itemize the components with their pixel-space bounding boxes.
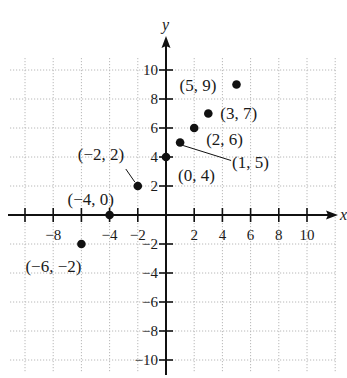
leader-line — [126, 169, 135, 182]
y-tick-label: −8 — [142, 323, 158, 339]
data-point — [134, 182, 143, 191]
point-label: (0, 4) — [178, 166, 215, 185]
x-tick-label: 10 — [300, 227, 315, 243]
data-point — [176, 138, 185, 147]
x-tick-label: 4 — [219, 227, 227, 243]
y-axis-label: y — [160, 16, 170, 34]
point-label: (3, 7) — [220, 104, 257, 123]
point-label: (−4, 0) — [68, 190, 114, 209]
x-tick-label: 6 — [247, 227, 255, 243]
y-tick-label: 4 — [151, 149, 159, 165]
coordinate-plane-chart: −8−4−2246810−10−8−6−4−2246810 (−6, −2)(−… — [0, 0, 347, 378]
y-tick-label: −10 — [135, 352, 158, 368]
y-tick-label: −2 — [142, 236, 158, 252]
x-tick-label: −4 — [102, 227, 118, 243]
point-label: (−6, −2) — [25, 257, 81, 276]
x-axis-label: x — [339, 206, 347, 223]
point-label: (−2, 2) — [78, 145, 124, 164]
data-point — [162, 153, 171, 162]
y-tick-label: 10 — [143, 62, 158, 78]
point-label: (5, 9) — [180, 76, 217, 95]
x-tick-label: −8 — [45, 227, 61, 243]
data-point — [232, 80, 241, 89]
y-tick-label: −4 — [142, 265, 158, 281]
data-point — [105, 211, 114, 220]
data-point — [190, 124, 199, 133]
data-points — [77, 80, 241, 248]
x-tick-label: 8 — [275, 227, 283, 243]
data-point — [204, 109, 213, 118]
data-point — [77, 240, 86, 249]
y-tick-label: 6 — [151, 120, 159, 136]
y-tick-label: 2 — [151, 178, 159, 194]
axes — [8, 36, 338, 375]
point-label: (1, 5) — [232, 153, 269, 172]
y-tick-label: 8 — [151, 91, 159, 107]
point-label: (2, 6) — [206, 130, 243, 149]
x-tick-label: 2 — [190, 227, 198, 243]
y-tick-label: −6 — [142, 294, 158, 310]
